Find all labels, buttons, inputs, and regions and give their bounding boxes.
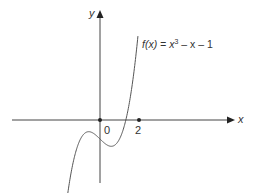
function-label: f(x) = x3 – x – 1	[142, 38, 213, 50]
y-axis-label: y	[89, 8, 95, 19]
y-axis-arrow-icon	[97, 10, 104, 18]
function-label-lhs: f(x) = x	[142, 38, 174, 50]
x2-tick-label: 2	[135, 125, 141, 136]
x-axis-arrow-icon	[227, 117, 235, 124]
cubic-function-plot	[0, 0, 254, 195]
function-curve	[68, 36, 138, 193]
x-axis-label: x	[238, 114, 244, 125]
x2-tick-dot	[137, 118, 141, 122]
origin-tick-label: 0	[104, 125, 110, 136]
function-label-rhs: – x – 1	[178, 38, 212, 50]
origin-dot	[98, 118, 102, 122]
